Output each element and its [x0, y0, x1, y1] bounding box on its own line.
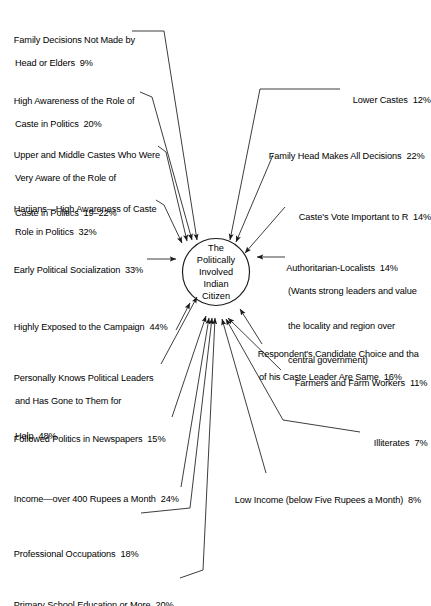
label-line: Personally Knows Political Leaders	[14, 373, 154, 383]
label-highly-exposed-campaign: Highly Exposed to the Campaign 44%	[4, 310, 168, 345]
label-line: Caste's Vote Important to R 14%	[299, 212, 431, 222]
connector-upper-middle-castes-aware	[158, 146, 187, 241]
label-line: Role in Politics 32%	[4, 227, 157, 239]
label-illiterates: Illiterates 7%	[364, 426, 427, 461]
label-castes-vote-important: Caste's Vote Important to R 14%	[289, 200, 431, 235]
label-followed-politics-newspapers: Followed Politics in Newspapers 15%	[4, 422, 165, 457]
label-line: and Has Gone to Them for	[4, 396, 153, 408]
label-family-decisions-not-made: Family Decisions Not Made by Head or Eld…	[4, 23, 135, 93]
label-early-political-socialization: Early Political Socialization 33%	[4, 253, 143, 288]
label-line: Respondent's Candidate Choice and tha	[258, 349, 419, 359]
label-line: Low Income (below Five Rupees a Month) 8…	[235, 495, 421, 505]
label-line: Upper and Middle Castes Who Were	[14, 150, 160, 160]
center-node-line-4: Indian	[183, 279, 249, 291]
label-lower-castes: Lower Castes 12%	[343, 83, 431, 118]
connector-castes-vote-important	[245, 207, 285, 253]
label-line: Farmers and Farm Workers 11%	[295, 378, 428, 388]
center-node-line-1: The	[183, 243, 249, 255]
label-line: Family Decisions Not Made by	[14, 35, 135, 45]
label-income-over-400-rupees: Income—over 400 Rupees a Month 24%	[4, 482, 179, 517]
center-node-line-5: Citizen	[183, 291, 249, 303]
label-harijans-high-awareness: Harijans—High Awareness of Caste Role in…	[4, 192, 157, 262]
connector-highly-exposed-campaign	[176, 303, 190, 330]
center-node-label: The Politically Involved Indian Citizen	[183, 243, 249, 303]
label-line: (Wants strong leaders and value	[277, 286, 417, 298]
connector-primary-school-education	[180, 318, 215, 578]
label-line: Income—over 400 Rupees a Month 24%	[14, 494, 179, 504]
label-line: Very Aware of the Role of	[4, 173, 160, 185]
label-line: Harijans—High Awareness of Caste	[14, 204, 157, 214]
influences-diagram: The Politically Involved Indian Citizen …	[0, 0, 431, 606]
label-line: Caste in Politics 20%	[4, 119, 134, 131]
label-farmers-farm-workers: Farmers and Farm Workers 11%	[285, 366, 427, 401]
label-line: High Awareness of the Role of	[14, 96, 135, 106]
label-low-income: Low Income (below Five Rupees a Month) 8…	[225, 483, 421, 518]
center-node-line-3: Involved	[183, 267, 249, 279]
center-node-line-2: Politically	[183, 255, 249, 267]
label-line: Illiterates 7%	[374, 438, 428, 448]
label-primary-school-education: Primary School Education or More 20%	[4, 588, 174, 606]
label-family-head-all-decisions: Family Head Makes All Decisions 22%	[259, 139, 425, 174]
label-professional-occupations: Professional Occupations 18%	[4, 537, 139, 572]
label-line: Followed Politics in Newspapers 15%	[14, 434, 166, 444]
label-line: Head or Elders 9%	[4, 58, 135, 70]
label-line: Authoritarian-Localists 14%	[286, 263, 398, 273]
label-line: Family Head Makes All Decisions 22%	[269, 151, 425, 161]
label-line: Highly Exposed to the Campaign 44%	[14, 322, 168, 332]
label-line: Primary School Education or More 20%	[14, 600, 174, 606]
label-line: the locality and region over	[277, 321, 417, 333]
label-line: Professional Occupations 18%	[14, 549, 139, 559]
label-line: Early Political Socialization 33%	[14, 265, 143, 275]
label-line: Lower Castes 12%	[353, 95, 431, 105]
